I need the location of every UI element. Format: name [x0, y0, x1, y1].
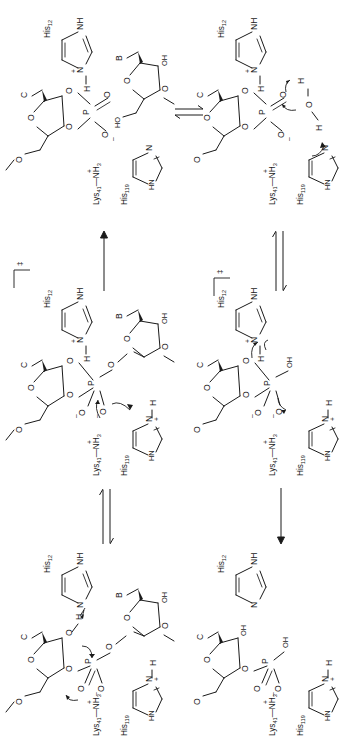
right-sugar-2prime-oh-p4: OH [160, 313, 169, 324]
his12-nh-p4: NH [75, 288, 85, 300]
two-prime-oh-p6: OH [239, 625, 248, 636]
right-sugar-p4: B O OH O [114, 310, 174, 362]
lys41-label-p4: Lys41—NH3 [92, 434, 102, 476]
his119-group-p6: His119 HN N + H [296, 660, 338, 736]
lys41-label-p2: Lys41—NH3 [268, 163, 278, 205]
his12-label-p4: His12 [43, 290, 53, 308]
lys41-label-p6: Lys41—NH3 [268, 694, 278, 736]
his12-n-p6: N [249, 602, 259, 608]
right-sugar-p5: B O OH O [114, 589, 174, 641]
his12-group-p2: His12 NH N + H [217, 18, 266, 92]
phos-o2prime: O [64, 87, 74, 94]
his12-group-p5: His12 NH N [43, 553, 92, 608]
phos-o2prime-p2: O [240, 87, 250, 94]
his119-label-p2: His119 [296, 184, 306, 205]
phos-o3prime-p3: O [241, 391, 251, 398]
lys41-group-p5: Lys41—NH3 + [86, 694, 102, 736]
his119-hn-p5: HN [147, 710, 156, 721]
his119-group-p3: His119 HN N + H [296, 400, 338, 476]
phosphorus-atom-p2: P [257, 109, 267, 115]
his119-label-p4: His119 [120, 455, 130, 476]
his119-h-p5: H [148, 660, 158, 666]
his12-label-p6: His12 [217, 555, 227, 573]
phosphate-negative-charge-p2: – [285, 137, 292, 141]
right-sugar-3prime-o-p4: O [160, 343, 170, 350]
his119-group-p2: His119 HN N [296, 145, 338, 205]
lys41-group-p3: Lys41—NH3 + [262, 434, 278, 476]
lys41-positive-charge-p2: + [262, 169, 269, 173]
sugar-right-base-b: B [114, 55, 124, 61]
his119-hn: HN [147, 179, 156, 190]
phos-o3prime-p2: O [240, 123, 250, 130]
his119-hn-p3: HN [323, 450, 332, 461]
his12-label-p5: His12 [43, 555, 53, 573]
left-sugar-p5: C O O O H [6, 614, 84, 712]
his119-hn-p2: HN [323, 179, 332, 190]
his12-nh-p3: NH [249, 288, 259, 300]
lys41-positive-charge-p5: + [86, 700, 93, 704]
phosphoryl-oxygen-p6: O [252, 685, 262, 692]
his119-group-p5: His119 HN N + H [120, 660, 162, 736]
methoxy-oxygen-left-p6: O [192, 698, 202, 705]
phosphate-anion-oxygen-p6: O [273, 685, 283, 692]
phosphate-negative-charge-p1: – [109, 137, 116, 141]
lys41-positive-charge-p6: + [262, 700, 269, 704]
phosphate-anion-oxygen-p2: O [276, 131, 286, 138]
right-sugar-2prime-oh-p5: OH [160, 592, 169, 603]
ts-equatorial-negative-p3: – [269, 414, 276, 418]
his12-nh-p2: NH [249, 18, 259, 30]
lys41-positive-charge-p3: + [262, 440, 269, 444]
right-sugar-3prime-o: O [160, 85, 170, 92]
phosphate-anion-oxygen-p5: O [96, 685, 106, 692]
his12-h: H [82, 86, 92, 92]
pentacoordinate-phosphorus-p4: O O P O – O – O [65, 354, 127, 418]
his12-positive-charge-p4: + [70, 339, 77, 343]
his12-label-p3: His12 [217, 290, 227, 308]
water-h-lower: H [314, 125, 324, 131]
ring-oxygen-right-p5: O [122, 614, 132, 621]
phosphate-hydroxyl-p6: OH [281, 637, 290, 648]
panel-bottom-right: His12 NH N C O [200, 540, 353, 745]
methoxy-oxygen-left-p3: O [192, 426, 202, 433]
his12-n-p5: N [75, 602, 85, 608]
phosphorus-atom-p3: P [262, 380, 272, 386]
phosphorus-atom-p4: P [86, 380, 96, 386]
his119-positive-charge-p4: + [153, 417, 160, 421]
phosphorus-atom-p5: P [83, 658, 93, 664]
panel-middle-left: ‡ His12 NH N + H C [0, 258, 180, 486]
lys41-label-p3: Lys41—NH3 [268, 434, 278, 476]
leaving-nucleoside-p1: B O OH O HO [113, 52, 174, 128]
his12-h-p2: H [256, 86, 266, 92]
phosphoryl-oxygen-p5: O [76, 685, 86, 692]
sugar-right-base-b-p5: B [114, 592, 124, 598]
ring-oxygen-left-p3: O [202, 384, 212, 391]
his12-h-p4: H [82, 356, 92, 362]
lys41-group-p1: Lys41—NH3 + [86, 163, 102, 205]
lys41-label-p5: Lys41—NH3 [92, 694, 102, 736]
his119-positive-charge-p3: + [329, 417, 336, 421]
ring-oxygen-left: O [26, 114, 36, 121]
double-dagger-marker-p4: ‡ [15, 262, 24, 266]
three-prime-phosphate-p6: O P O O – OH [240, 637, 290, 696]
phosphoryl-oxygen-p2: O [278, 91, 288, 98]
sugar-left-base-c-p2: C [195, 92, 205, 98]
ring-oxygen-left-p2: O [202, 114, 212, 121]
his119-h-p6: H [324, 660, 334, 666]
his12-nh-p5: NH [75, 553, 85, 565]
his119-h-p4: H [148, 400, 158, 406]
methoxy-oxygen-left-p5: O [14, 698, 24, 705]
his12-nh: NH [75, 18, 85, 30]
sugar-left-base-c-p6: C [195, 634, 205, 640]
methoxy-oxygen-left-p4: O [14, 426, 24, 433]
panel-bottom-left: His12 NH N C O [0, 540, 180, 745]
right-sugar-2prime-oh: OH [160, 55, 169, 66]
lys41-group-p4: Lys41—NH3 + [86, 434, 102, 476]
his119-hn-p6: HN [323, 710, 332, 721]
his119-h-p3: H [324, 400, 334, 406]
ring-oxygen-left-p6: O [202, 656, 212, 663]
his119-label-p5: His119 [120, 715, 130, 736]
his119-label-p3: His119 [296, 455, 306, 476]
lys41-positive-charge-p4: + [86, 440, 93, 444]
panel-middle-right: ‡ His12 NH N + H C [200, 258, 353, 486]
ts-equatorial-oxygen-p4: O [98, 408, 108, 415]
